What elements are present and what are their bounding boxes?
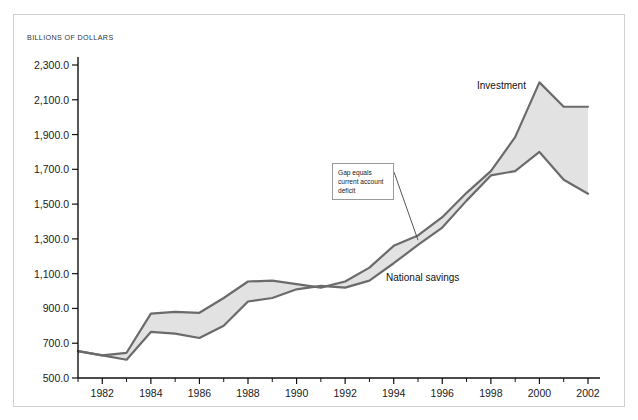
x-axis-tick-label: 1992	[333, 387, 356, 399]
annotation-leader-line	[394, 172, 418, 240]
y-axis-tick-label: 2,100.0	[24, 94, 69, 106]
chart-figure: BILLIONS OF DOLLARS 500.0700.0900.01,100…	[0, 0, 638, 420]
y-axis-tick-label: 1,300.0	[24, 233, 69, 245]
x-axis-tick-label: 2002	[576, 387, 599, 399]
y-axis-tick-label: 900.0	[24, 302, 69, 314]
series-line-investment	[78, 82, 588, 355]
y-axis-tick-label: 500.0	[24, 372, 69, 384]
x-axis-tick-label: 1982	[91, 387, 114, 399]
series-label-investment: Investment	[477, 80, 526, 91]
y-axis-tick-label: 1,700.0	[24, 163, 69, 175]
y-axis-tick-label: 1,900.0	[24, 129, 69, 141]
x-axis-tick-label: 2000	[528, 387, 551, 399]
y-axis-tick-label: 2,300.0	[24, 59, 69, 71]
x-axis-tick-label: 1998	[479, 387, 502, 399]
x-axis-tick-label: 1990	[285, 387, 308, 399]
x-axis-tick-label: 1986	[188, 387, 211, 399]
y-axis-tick-label: 700.0	[24, 337, 69, 349]
x-axis-tick-label: 1988	[236, 387, 259, 399]
chart-plot-area	[0, 0, 638, 420]
series-label-national-savings: National savings	[386, 272, 459, 283]
annotation-leader-line-group	[394, 172, 418, 240]
annotation-line-3: deficit	[338, 186, 388, 195]
axes-group	[72, 57, 600, 384]
annotation-line-1: Gap equals	[338, 168, 388, 177]
gap-area-fill	[78, 82, 588, 359]
y-axis-tick-label: 1,500.0	[24, 198, 69, 210]
x-axis-tick-label: 1984	[139, 387, 162, 399]
x-axis-tick-label: 1996	[431, 387, 454, 399]
annotation-callout-box: Gap equals current account deficit	[332, 163, 394, 200]
y-axis-tick-label: 1,100.0	[24, 268, 69, 280]
annotation-line-2: current account	[338, 177, 388, 186]
x-axis-tick-label: 1994	[382, 387, 405, 399]
area-fill-group	[78, 82, 588, 359]
